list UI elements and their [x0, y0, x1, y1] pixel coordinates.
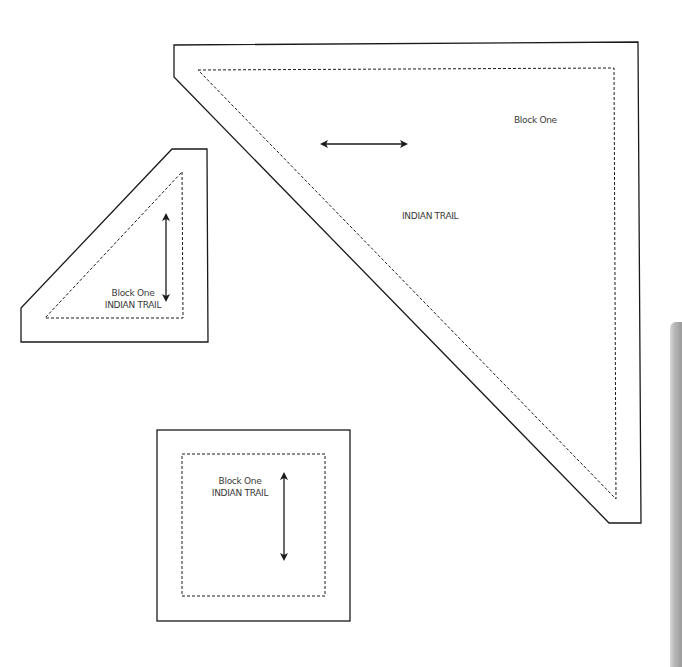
block-label: Block One	[514, 114, 557, 126]
page-edge-tab	[670, 322, 682, 667]
large-triangle-seam-line	[198, 68, 616, 499]
small-triangle-piece	[21, 149, 208, 342]
square-labels: Block One INDIAN TRAIL	[207, 475, 273, 499]
pattern-label: INDIAN TRAIL	[100, 299, 166, 311]
square-piece	[157, 430, 350, 621]
pattern-label: INDIAN TRAIL	[207, 487, 273, 499]
small-triangle-labels: Block One INDIAN TRAIL	[100, 287, 166, 311]
pattern-label: INDIAN TRAIL	[402, 210, 458, 222]
block-label: Block One	[207, 475, 273, 487]
square-cut-line	[157, 430, 350, 621]
block-label: Block One	[100, 287, 166, 299]
large-triangle-piece	[174, 42, 641, 523]
large-triangle-cut-line	[174, 42, 641, 523]
